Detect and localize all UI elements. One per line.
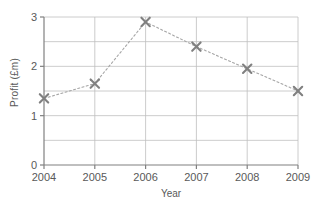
x-tick-label: 2005 bbox=[83, 171, 107, 183]
x-tick-label: 2004 bbox=[32, 171, 56, 183]
x-axis-ticks bbox=[44, 165, 298, 169]
horizontal-gridlines bbox=[44, 17, 298, 140]
y-tick-label: 1 bbox=[31, 110, 37, 122]
y-axis-tick-labels: 0123 bbox=[31, 11, 37, 171]
profit-line-chart: Profit (£m) Year 0123 200420052006200720… bbox=[0, 0, 316, 210]
x-tick-label: 2007 bbox=[184, 171, 208, 183]
y-tick-label: 3 bbox=[31, 11, 37, 23]
data-point-markers bbox=[40, 18, 302, 103]
y-tick-label: 2 bbox=[31, 60, 37, 72]
plot-area: 0123 200420052006200720082009 bbox=[0, 0, 316, 210]
x-tick-label: 2006 bbox=[133, 171, 157, 183]
x-axis-tick-labels: 200420052006200720082009 bbox=[32, 171, 310, 183]
x-tick-label: 2008 bbox=[235, 171, 259, 183]
y-tick-label: 0 bbox=[31, 159, 37, 171]
data-series-line bbox=[44, 22, 298, 98]
x-tick-label: 2009 bbox=[286, 171, 310, 183]
